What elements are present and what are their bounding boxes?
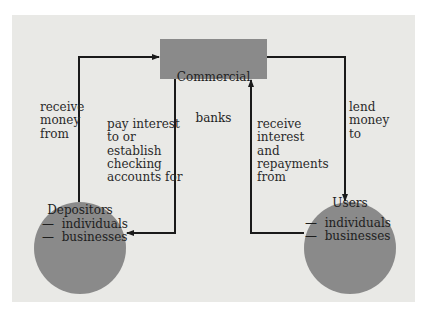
users-title: Users xyxy=(324,197,376,211)
depositors-item-2: — businesses xyxy=(42,231,127,245)
label-lend-money-to: lend money to xyxy=(349,101,389,141)
banks-label-line1: Commercial xyxy=(160,71,267,85)
depositors-item-label: individuals xyxy=(62,217,128,231)
users-item-label: businesses xyxy=(325,229,391,243)
bullet-dash: — xyxy=(42,230,54,244)
label-pay-interest: pay interest to or establish checking ac… xyxy=(107,118,182,184)
bullet-dash: — xyxy=(42,217,54,231)
bullet-dash: — xyxy=(305,229,317,243)
bullet-dash: — xyxy=(305,216,317,230)
depositors-title: Depositors xyxy=(44,204,116,218)
users-item-label: individuals xyxy=(325,216,391,230)
label-receive-interest: receive interest and repayments from xyxy=(257,118,329,184)
users-item-2: — businesses xyxy=(305,230,390,244)
label-receive-money-from: receive money from xyxy=(40,101,84,141)
depositors-item-label: businesses xyxy=(62,230,128,244)
